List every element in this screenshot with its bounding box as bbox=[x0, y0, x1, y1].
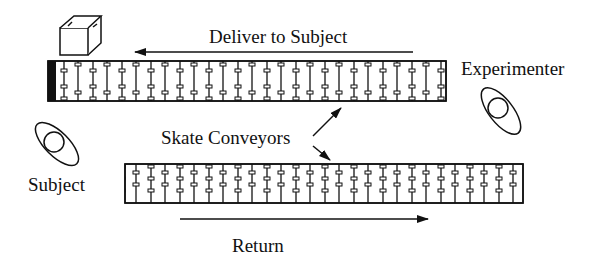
tote-box-icon bbox=[60, 16, 101, 55]
delivery-conveyor bbox=[48, 61, 446, 101]
pointer-arrow-down bbox=[313, 146, 330, 160]
return-label: Return bbox=[232, 236, 284, 256]
subject-label: Subject bbox=[28, 175, 85, 195]
skate-conveyors-label: Skate Conveyors bbox=[161, 128, 290, 148]
deliver-to-subject-label: Deliver to Subject bbox=[209, 27, 347, 47]
return-conveyor bbox=[125, 164, 523, 203]
subject-figure-icon bbox=[29, 116, 86, 173]
pointer-arrow-up bbox=[313, 108, 341, 136]
experimenter-figure-icon bbox=[474, 82, 527, 141]
experimenter-label: Experimenter bbox=[461, 59, 564, 79]
